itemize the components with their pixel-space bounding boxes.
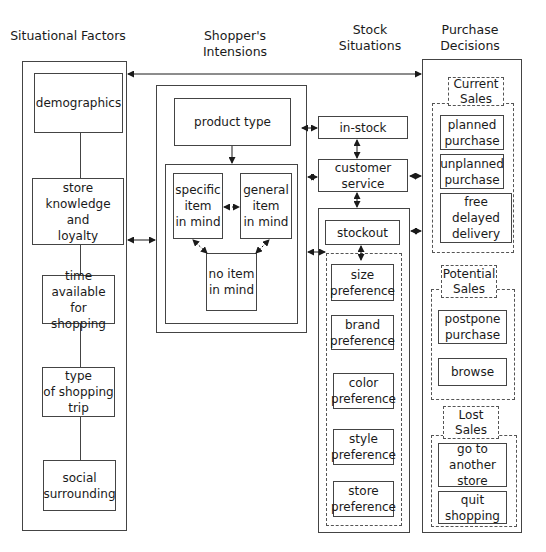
arrow-general-none [256, 240, 269, 253]
arrow-specific-none [193, 240, 207, 253]
connector-arrows [0, 0, 546, 552]
